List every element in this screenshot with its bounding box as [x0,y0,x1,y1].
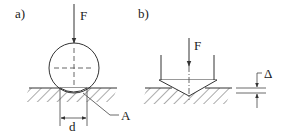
dimension-d-label: d [69,119,76,133]
force-label: F [194,38,201,53]
force-label: F [80,8,87,23]
panel-b-label: b) [138,6,149,21]
delta-label: Δ [264,66,272,81]
panel-a: a) F d A [15,4,131,133]
panel-a-label: a) [15,6,25,21]
indentation-diagram: a) F d A b) F [0,0,285,133]
panel-b: b) F Δ [138,6,272,108]
point-a-label: A [121,108,131,123]
